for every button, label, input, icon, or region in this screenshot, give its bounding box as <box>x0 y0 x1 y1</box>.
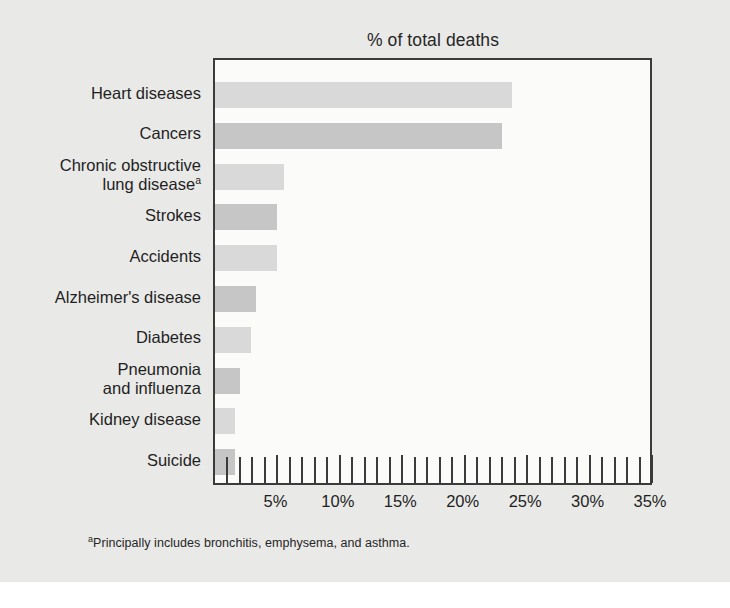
axis-tick-minor <box>601 457 603 483</box>
axis-tick-minor <box>351 457 353 483</box>
axis-tick-label: 10% <box>303 492 373 511</box>
axis-tick-label: 5% <box>240 492 310 511</box>
bar <box>215 449 235 475</box>
chart-footnote: aPrincipally includes bronchitis, emphys… <box>88 536 410 550</box>
plot-inner <box>215 60 650 483</box>
axis-tick-minor <box>376 457 378 483</box>
axis-tick-minor <box>289 457 291 483</box>
axis-tick-minor <box>639 457 641 483</box>
bar <box>215 368 240 394</box>
axis-tick-minor <box>439 457 441 483</box>
bar <box>215 286 256 312</box>
category-label: Suicide <box>0 451 201 470</box>
category-label: Cancers <box>0 124 201 143</box>
axis-tick-minor <box>251 457 253 483</box>
axis-tick-major <box>401 455 403 483</box>
category-label: Diabetes <box>0 328 201 347</box>
category-label: Kidney disease <box>0 410 201 429</box>
bar <box>215 123 502 149</box>
chart-title: % of total deaths <box>213 30 653 51</box>
footnote-text: Principally includes bronchitis, emphyse… <box>93 536 410 550</box>
axis-tick-major <box>339 455 341 483</box>
axis-tick-minor <box>539 457 541 483</box>
category-label: Pneumoniaand influenza <box>0 360 201 398</box>
axis-tick-minor <box>364 457 366 483</box>
axis-tick-minor <box>476 457 478 483</box>
axis-tick-major <box>651 455 653 483</box>
axis-tick-major <box>589 455 591 483</box>
axis-tick-minor <box>564 457 566 483</box>
category-label: Chronic obstructivelung diseasea <box>0 156 201 194</box>
axis-tick-minor <box>314 457 316 483</box>
axis-tick-minor <box>226 457 228 483</box>
axis-tick-major <box>526 455 528 483</box>
axis-tick-minor <box>626 457 628 483</box>
axis-tick-minor <box>326 457 328 483</box>
axis-tick-minor <box>551 457 553 483</box>
axis-tick-minor <box>264 457 266 483</box>
plot-area <box>213 58 652 485</box>
axis-tick-minor <box>301 457 303 483</box>
category-footnote-marker: a <box>195 173 201 185</box>
axis-tick-minor <box>389 457 391 483</box>
axis-tick-label: 20% <box>428 492 498 511</box>
axis-tick-minor <box>576 457 578 483</box>
axis-tick-minor <box>614 457 616 483</box>
axis-tick-minor <box>451 457 453 483</box>
axis-tick-label: 15% <box>365 492 435 511</box>
axis-tick-major <box>464 455 466 483</box>
category-label: Strokes <box>0 206 201 225</box>
axis-tick-label: 25% <box>490 492 560 511</box>
bar <box>215 204 277 230</box>
axis-tick-major <box>276 455 278 483</box>
figure-panel: % of total deaths Heart diseasesCancersC… <box>0 0 730 582</box>
bar <box>215 164 284 190</box>
axis-tick-minor <box>489 457 491 483</box>
bar <box>215 82 512 108</box>
axis-tick-label: 35% <box>615 492 685 511</box>
category-label: Alzheimer's disease <box>0 288 201 307</box>
axis-tick-minor <box>514 457 516 483</box>
axis-tick-minor <box>239 457 241 483</box>
bar <box>215 327 251 353</box>
bar <box>215 245 277 271</box>
axis-tick-label: 30% <box>553 492 623 511</box>
bar <box>215 408 235 434</box>
category-label: Accidents <box>0 247 201 266</box>
axis-tick-minor <box>501 457 503 483</box>
axis-tick-minor <box>414 457 416 483</box>
category-label: Heart diseases <box>0 84 201 103</box>
axis-tick-minor <box>426 457 428 483</box>
